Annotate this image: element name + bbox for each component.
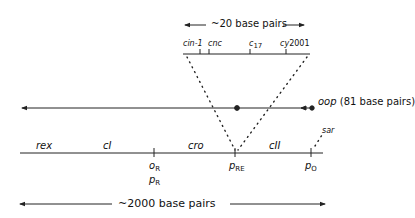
oop-label: oop (81 base pairs) [318, 97, 415, 107]
site-cy-main: cy [280, 39, 289, 48]
oop-note: (81 base pairs) [340, 96, 415, 107]
site-cnc: cnc [208, 40, 222, 48]
site-c17-sub: 17 [253, 42, 262, 50]
gene-ci: cI [103, 141, 111, 151]
site-pR: pR [149, 175, 160, 187]
pO-sub: O [311, 165, 317, 173]
detail-line [183, 49, 310, 54]
site-pRE: pRE [229, 161, 245, 173]
gene-cro: cro [188, 141, 204, 151]
site-cy2001: cy2001 [280, 40, 310, 48]
bottom-scale-label: ~2000 base pairs [118, 198, 215, 209]
site-cin1: cin-1 [183, 40, 203, 48]
pRE-sub: RE [235, 165, 244, 173]
sar-label: sar [322, 127, 334, 135]
top-scale-label: ~20 base pairs [211, 19, 287, 29]
site-cy-suffix: 2001 [289, 39, 309, 48]
gene-rex: rex [36, 141, 52, 151]
zoom-dotted-lines [187, 57, 322, 150]
site-c17: c17 [249, 40, 262, 50]
site-pO: pO [305, 161, 317, 173]
site-oR: oR [149, 161, 160, 173]
pR-sub: R [155, 179, 160, 187]
oop-name: oop [318, 96, 337, 107]
gene-cii: cII [269, 141, 280, 151]
oR-sub: R [155, 165, 160, 173]
